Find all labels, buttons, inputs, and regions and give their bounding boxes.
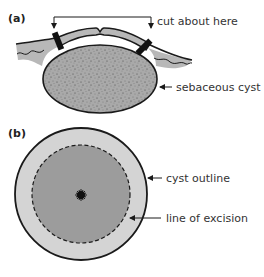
panel-b: (b) cyst outline line of excision xyxy=(8,127,248,260)
panel-b-label: (b) xyxy=(8,127,26,140)
cut-bracket xyxy=(54,17,151,28)
sebaceous-cyst-label: sebaceous cyst xyxy=(176,81,261,94)
panel-a: (a) cut about here sebaceous cyst xyxy=(8,12,261,113)
line-of-excision-label: line of excision xyxy=(166,212,248,225)
cyst-outline-label: cyst outline xyxy=(166,172,230,185)
sebaceous-cyst-excision-diagram: (a) cut about here sebaceous cyst xyxy=(0,0,264,277)
cut-about-here-label: cut about here xyxy=(157,15,238,28)
panel-a-label: (a) xyxy=(8,12,25,25)
